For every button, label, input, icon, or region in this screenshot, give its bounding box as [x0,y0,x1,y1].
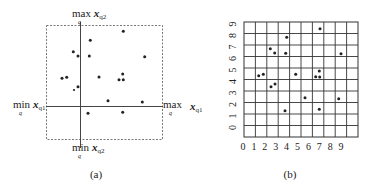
data-point [121,111,124,114]
data-point [61,77,64,80]
x-tick-label: 7 [317,141,322,152]
x-tick-label: 6 [306,141,311,152]
data-point [270,85,273,88]
y-tick-label: 0 [227,125,238,130]
data-point [122,78,125,81]
data-point [65,76,68,79]
data-point [340,52,343,55]
data-point [304,96,307,99]
x-tick-label: 2 [262,141,267,152]
caption-a: (a) [90,168,103,181]
svg-text:min xq2: min xq2 [72,141,105,155]
x-tick-label: 9 [339,141,344,152]
svg-text:q: q [169,110,172,116]
data-point [72,50,75,53]
data-point [257,74,260,77]
points [257,27,342,112]
data-point [269,47,272,50]
label-min-xq2: min xq2 q [72,141,105,159]
x-tick-label: 0 [241,141,246,152]
label-min-xq1: min xq1 q [13,98,46,116]
svg-text:q: q [19,110,22,116]
data-point [273,52,276,55]
svg-text:max: max [163,98,182,110]
x-tick-label: 4 [284,141,289,152]
data-point [262,73,265,76]
y-tick-label: 8 [227,33,238,38]
data-point [285,36,288,39]
data-point [318,70,321,73]
panel-b: 0123456789 0123456789 (b) [227,22,358,182]
data-point [314,75,317,78]
data-point [77,85,80,88]
svg-text:q: q [78,19,81,25]
label-max-xq1: max q xq1 [163,98,203,116]
caption-b: (b) [284,168,297,181]
data-point [122,30,125,33]
data-point [107,99,110,102]
data-point [77,55,80,58]
y-tick-label: 3 [227,91,238,96]
label-max-xq2: max xq2 q [72,7,107,25]
data-point [73,89,75,91]
x-tick-label: 1 [251,141,256,152]
grid [244,22,358,137]
bounding-box [47,26,163,140]
y-tick-label: 5 [227,68,238,73]
data-point [143,55,146,58]
svg-text:min xq1: min xq1 [13,98,46,112]
data-point [274,83,277,86]
y-tick-labels: 0123456789 [227,22,238,131]
y-tick-label: 9 [227,22,238,27]
data-point [284,109,287,112]
y-tick-label: 4 [227,79,238,84]
data-point [98,76,101,79]
data-point [87,112,90,115]
x-tick-label: 5 [295,141,300,152]
svg-text:xq1: xq1 [189,100,203,114]
data-point [337,97,340,100]
y-tick-label: 7 [227,45,238,50]
y-tick-label: 1 [227,114,238,119]
data-point [284,52,287,55]
data-point [294,73,297,76]
data-point [319,27,322,30]
data-point [318,108,321,111]
panel-a: max xq2 q min xq2 q min xq1 q max q xq1 … [13,7,203,181]
data-point [318,76,321,79]
x-tick-label: 3 [273,141,278,152]
x-tick-label: 8 [328,141,333,152]
data-point [88,55,91,58]
y-tick-label: 2 [227,102,238,107]
x-tick-labels: 0123456789 [241,141,344,152]
data-point [141,101,144,104]
y-tick-label: 6 [227,56,238,61]
svg-text:q: q [78,153,81,159]
points [61,30,147,115]
data-point [89,39,92,42]
data-point [121,73,124,76]
data-point [118,78,121,81]
